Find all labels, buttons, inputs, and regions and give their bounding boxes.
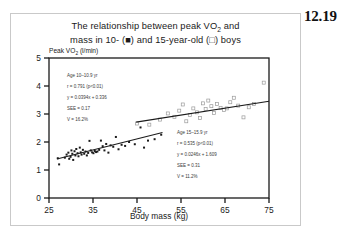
data-point (207, 99, 210, 102)
data-point (58, 163, 60, 165)
y-axis-label-unit: (l/min) (78, 47, 98, 55)
data-point (112, 146, 114, 148)
data-point (75, 148, 77, 150)
y-axis-label-text: Peak VO (49, 47, 75, 54)
data-point (181, 103, 184, 106)
figure-card: The relationship between peak VO2 and ma… (10, 13, 301, 226)
annot-15yr-line1: Age 15–15.9 yr (177, 130, 208, 135)
annot-15yr-line2: r = 0.535 (p<0.01) (177, 141, 214, 146)
page-number: 12.19 (302, 8, 354, 25)
y-axis-label: Peak VO2 (l/min) (49, 47, 98, 56)
annot-10yr-line5: V = 16.2% (67, 117, 88, 122)
data-point (143, 147, 145, 149)
data-point (68, 158, 70, 160)
data-point (115, 136, 117, 138)
data-point (134, 143, 136, 145)
data-point (204, 107, 207, 110)
data-point (247, 106, 250, 109)
data-point (121, 144, 123, 146)
data-point (74, 150, 76, 152)
data-point (96, 151, 98, 153)
data-point (70, 149, 72, 151)
data-point (77, 155, 79, 157)
data-point (262, 81, 265, 84)
data-point (79, 147, 81, 149)
data-point (81, 154, 83, 156)
data-point (185, 120, 188, 123)
data-point (154, 138, 156, 140)
data-point (147, 140, 149, 142)
data-point (140, 126, 142, 128)
y-tick-label: 5 (36, 53, 41, 63)
x-tick-label: 65 (220, 205, 230, 215)
y-tick-label: 3 (36, 109, 41, 119)
data-point (160, 134, 162, 136)
annot-10yr-line4: SEE = 0.17 (67, 106, 90, 111)
data-point (107, 152, 109, 154)
annot-15yr-line4: SEE = 0.31 (177, 163, 200, 168)
data-point (100, 140, 102, 142)
data-point (198, 116, 201, 119)
x-axis-label: Body mass (kg) (130, 211, 188, 221)
data-point (92, 152, 94, 154)
regression-line (57, 133, 163, 159)
data-point (192, 107, 195, 110)
data-point (72, 159, 74, 161)
y-tick-label: 1 (36, 165, 41, 175)
data-point (210, 105, 213, 108)
data-point (82, 149, 84, 151)
data-point (88, 140, 90, 142)
annotation-15yr: Age 15–15.9 yr r = 0.535 (p<0.01) y = 0.… (177, 130, 217, 179)
data-point (148, 123, 151, 126)
data-point (67, 152, 69, 154)
x-tick-label: 25 (44, 205, 54, 215)
data-point (232, 96, 235, 99)
data-point (86, 154, 88, 156)
annot-10yr-line1: Age 10–10.9 yr (67, 73, 98, 78)
regression-line (136, 101, 269, 122)
data-point (178, 109, 181, 112)
scatter-plot: Peak VO2 (l/min) 012345 253545556575 Age… (11, 14, 300, 225)
data-point (83, 153, 85, 155)
data-point (242, 116, 245, 119)
x-tick-label: 75 (264, 205, 274, 215)
data-point (105, 143, 107, 145)
annot-15yr-line5: V = 11.2% (177, 174, 198, 179)
annot-10yr-line3: y = 0.0394x + 0.336 (67, 95, 107, 100)
data-point (87, 152, 89, 154)
data-point (229, 101, 232, 104)
annotation-10yr: Age 10–10.9 yr r = 0.791 (p<0.01) y = 0.… (67, 73, 107, 122)
data-point (216, 102, 219, 105)
data-point (166, 112, 169, 115)
data-point (213, 111, 216, 114)
y-tick-label: 2 (36, 137, 41, 147)
y-tick-label: 4 (36, 81, 41, 91)
data-point (118, 148, 120, 150)
data-point (66, 154, 68, 156)
y-tick-label: 0 (36, 193, 41, 203)
x-tick-label: 35 (88, 205, 98, 215)
data-point (202, 102, 205, 105)
y-axis-ticks: 012345 (36, 53, 49, 203)
data-point (103, 149, 105, 151)
annot-10yr-line2: r = 0.791 (p<0.01) (67, 84, 104, 89)
plot-frame (49, 58, 269, 198)
data-point (124, 145, 126, 147)
annot-15yr-line3: y = 0.0246x + 1.609 (177, 152, 217, 157)
